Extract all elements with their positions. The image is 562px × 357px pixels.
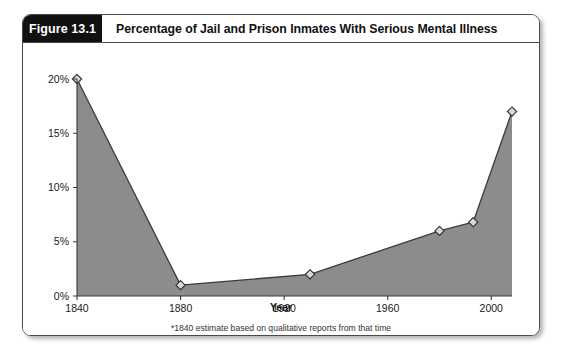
y-tick-label: 10%	[48, 181, 69, 193]
figure-header: Figure 13.1 Percentage of Jail and Priso…	[23, 15, 539, 43]
y-tick-label: 20%	[48, 73, 69, 85]
x-tick-label: 1840	[65, 302, 89, 314]
x-axis-title: Year	[270, 301, 292, 313]
x-tick-label: 2000	[480, 302, 504, 314]
chart-body: 0%5%10%15%20% 18401880192019602000 Year …	[23, 43, 539, 335]
figure-number-badge: Figure 13.1	[23, 15, 102, 42]
area-chart: 0%5%10%15%20% 18401880192019602000 Year …	[23, 43, 540, 336]
figure-title: Percentage of Jail and Prison Inmates Wi…	[102, 15, 539, 42]
chart-footnote: *1840 estimate based on qualitative repo…	[171, 323, 391, 333]
x-tick-label: 1880	[169, 302, 193, 314]
y-tick-label: 5%	[54, 235, 69, 247]
x-tick-label: 1960	[376, 302, 400, 314]
y-tick-label: 15%	[48, 127, 69, 139]
y-tick-label: 0%	[54, 290, 69, 302]
figure-card: Figure 13.1 Percentage of Jail and Priso…	[22, 14, 540, 336]
